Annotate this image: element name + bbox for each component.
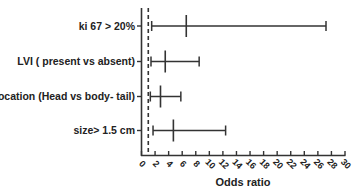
row-label: location (Head vs body- tail) — [0, 90, 135, 102]
forest-row: LVI ( present vs absent) — [17, 51, 199, 73]
x-axis-ticks: 024681012141618202224262830 — [137, 151, 353, 171]
x-tick-label: 28 — [325, 157, 339, 171]
x-tick-label: 8 — [191, 159, 202, 170]
x-tick-label: 26 — [312, 157, 326, 171]
x-tick-label: 4 — [164, 159, 175, 170]
x-tick-label: 12 — [217, 157, 231, 171]
forest-plot: ki 67 > 20%LVI ( present vs absent)locat… — [0, 0, 356, 194]
forest-row: size> 1.5 cm — [73, 120, 225, 142]
plot-rows: ki 67 > 20%LVI ( present vs absent)locat… — [0, 15, 326, 142]
x-tick-label: 22 — [285, 157, 299, 171]
forest-row: location (Head vs body- tail) — [0, 86, 181, 108]
x-tick-label: 10 — [203, 157, 217, 171]
x-tick-label: 30 — [339, 157, 353, 171]
x-tick-label: 2 — [151, 159, 162, 170]
row-label: ki 67 > 20% — [79, 20, 136, 32]
x-tick-label: 16 — [244, 157, 258, 171]
x-tick-label: 24 — [298, 157, 312, 171]
row-label: LVI ( present vs absent) — [17, 55, 135, 67]
x-tick-label: 6 — [178, 159, 189, 170]
row-label: size> 1.5 cm — [73, 124, 135, 136]
x-tick-label: 0 — [137, 159, 148, 170]
x-tick-label: 14 — [230, 157, 244, 171]
x-axis-title: Odds ratio — [215, 176, 270, 188]
x-tick-label: 20 — [271, 157, 285, 171]
x-tick-label: 18 — [258, 157, 272, 171]
forest-row: ki 67 > 20% — [79, 15, 326, 37]
